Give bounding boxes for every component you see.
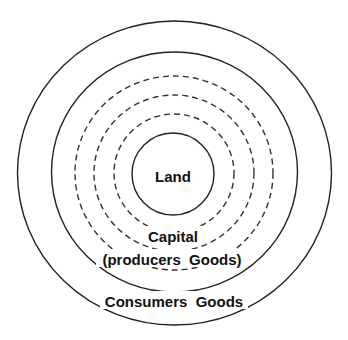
land-label: Land bbox=[155, 168, 191, 185]
concentric-diagram: Land Capital (producers Goods) Consumers… bbox=[0, 0, 348, 340]
consumers-label: Consumers Goods bbox=[105, 293, 243, 310]
capital-sub-label: (producers Goods) bbox=[102, 251, 241, 268]
capital-label: Capital bbox=[148, 228, 198, 245]
